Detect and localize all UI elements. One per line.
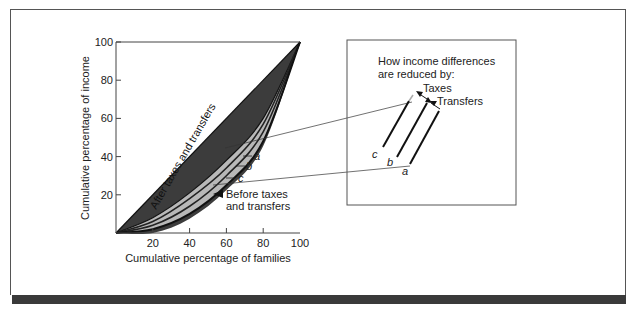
x-tick-label: 40 — [183, 237, 195, 249]
x-ticks: 20406080100 — [147, 228, 310, 249]
curve-label-a: a — [254, 150, 260, 162]
x-tick-label: 80 — [257, 237, 269, 249]
inset-panel: How income differences are reduced by: c… — [347, 40, 516, 205]
y-tick-label: 20 — [101, 189, 113, 201]
x-tick-label: 100 — [291, 237, 309, 249]
inset-line-b — [397, 103, 427, 157]
inset-line-a — [410, 111, 439, 164]
y-tick-label: 60 — [101, 112, 113, 124]
taxes-label: Taxes — [423, 82, 452, 94]
before-label-line1: Before taxes — [226, 188, 288, 200]
y-tick-label: 40 — [101, 151, 113, 163]
lorenz-chart: 20406080100 20406080100 Cumulative perce… — [79, 36, 412, 264]
y-ticks: 20406080100 — [95, 36, 121, 201]
x-tick-label: 60 — [220, 237, 232, 249]
figure-canvas: 20406080100 20406080100 Cumulative perce… — [0, 0, 637, 312]
inset-label-c: c — [372, 148, 378, 160]
x-tick-label: 20 — [147, 237, 159, 249]
x-axis-title: Cumulative percentage of families — [125, 252, 291, 264]
y-tick-label: 100 — [95, 36, 113, 48]
y-tick-label: 80 — [101, 74, 113, 86]
transfers-label: Transfers — [437, 95, 484, 107]
inset-line-c-ext — [409, 95, 413, 101]
inset-title-line1: How income differences — [378, 55, 496, 67]
y-axis-title: Cumulative percentage of income — [79, 56, 91, 220]
before-label-line2: and transfers — [226, 200, 291, 212]
inset-label-b: b — [387, 156, 393, 168]
inset-label-a: a — [402, 165, 408, 177]
inset-title-line2: are reduced by: — [378, 68, 454, 80]
curve-label-b: b — [246, 160, 252, 172]
